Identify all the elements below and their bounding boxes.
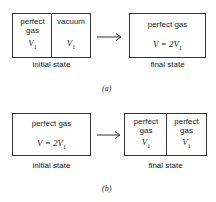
panel-b-final-caption: final state (124, 161, 207, 170)
perfect-gas-region: perfect gas V = 2V1 (13, 114, 90, 155)
volume-label: V = 2V1 (13, 139, 90, 152)
perfect-gas-compartment: perfect gas V1 (13, 14, 52, 57)
vacuum-compartment: vacuum V1 (52, 14, 90, 57)
volume-label: V1 (13, 39, 52, 52)
gas-label-line2: gas (125, 126, 167, 135)
perfect-gas-region: perfect gas V = 2V1 (130, 14, 205, 57)
volume-label: V = 2V1 (130, 40, 205, 53)
gas-label-line2: gas (167, 126, 206, 135)
vacuum-label: vacuum (52, 17, 90, 26)
right-gas-compartment: perfect gas V1 (167, 114, 206, 155)
gas-label-line2: gas (13, 26, 52, 35)
panel-b-initial-box: perfect gas V = 2V1 (12, 113, 91, 156)
panel-a-label: (a) (102, 84, 111, 93)
gas-label: perfect gas (13, 119, 90, 128)
arrow-right-icon (96, 130, 124, 140)
arrow-right-icon (96, 32, 124, 42)
volume-label: V1 (167, 138, 206, 151)
gas-label: perfect gas (130, 20, 205, 29)
panel-b-initial-caption: initial state (12, 161, 91, 170)
gas-label-line1: perfect (125, 117, 167, 126)
gas-label-line1: perfect (13, 17, 52, 26)
panel-a-initial-caption: initial state (12, 60, 91, 69)
gas-label-line1: perfect (167, 117, 206, 126)
volume-label: V1 (52, 39, 90, 52)
panel-b-final-box: perfect gas V1 perfect gas V1 (124, 113, 207, 156)
panel-a-final-caption: final state (129, 60, 206, 69)
panel-a-initial-box: perfect gas V1 vacuum V1 (12, 13, 91, 58)
panel-a-final-box: perfect gas V = 2V1 (129, 13, 206, 58)
left-gas-compartment: perfect gas V1 (125, 114, 167, 155)
volume-label: V1 (125, 138, 167, 151)
panel-b-label: (b) (102, 184, 111, 193)
